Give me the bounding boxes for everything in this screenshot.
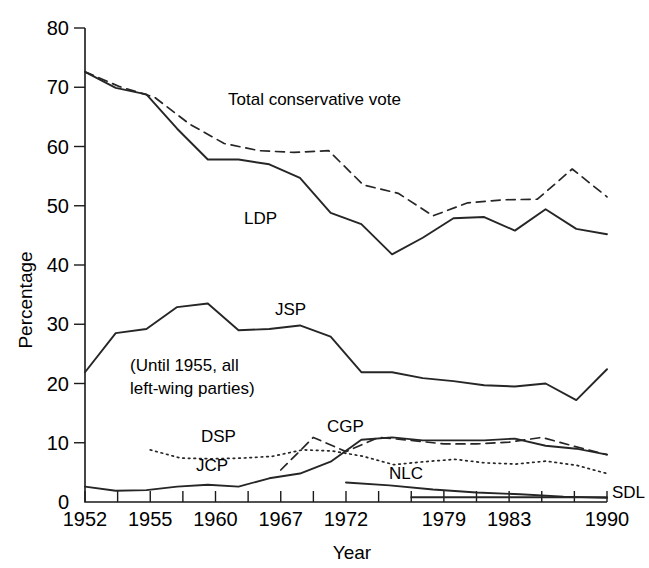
x-tick-label: 1983 xyxy=(487,508,532,530)
x-tick-label: 1990 xyxy=(585,508,630,530)
y-tick-label: 50 xyxy=(47,195,69,217)
x-tick-labels: 19521955196019671972197919831990 xyxy=(63,508,630,530)
y-axis-title: Percentage xyxy=(15,251,36,348)
series-line-cgp xyxy=(281,437,607,470)
x-axis-title: Year xyxy=(333,542,372,563)
y-tick-label: 80 xyxy=(47,17,69,39)
series-label-nlc: NLC xyxy=(389,464,423,483)
y-tick-label: 30 xyxy=(47,313,69,335)
series-label-ldp: LDP xyxy=(244,209,277,228)
series-label-jsp: JSP xyxy=(275,300,306,319)
series-label-jcp: JCP xyxy=(196,456,228,475)
x-tick-label: 1952 xyxy=(63,508,108,530)
x-tick-label: 1972 xyxy=(324,508,369,530)
series-label-dsp: DSP xyxy=(201,427,236,446)
y-tick-labels: 01020304050607080 xyxy=(47,17,69,513)
series-label-sdl: SDL xyxy=(612,483,645,502)
x-tick-label: 1955 xyxy=(128,508,173,530)
note-left-wing-2: left-wing parties) xyxy=(130,379,255,398)
x-tick-label: 1979 xyxy=(422,508,467,530)
y-tick-marks xyxy=(74,28,85,443)
y-tick-label: 40 xyxy=(47,254,69,276)
y-tick-label: 20 xyxy=(47,373,69,395)
y-tick-label: 60 xyxy=(47,136,69,158)
y-tick-label: 10 xyxy=(47,432,69,454)
note-left-wing: (Until 1955, all xyxy=(130,356,239,375)
series-label-cgp: CGP xyxy=(327,417,364,436)
x-tick-label: 1967 xyxy=(259,508,304,530)
x-tick-label: 1960 xyxy=(193,508,238,530)
y-tick-label: 70 xyxy=(47,76,69,98)
line-chart-svg: 01020304050607080 1952195519601967197219… xyxy=(0,0,649,568)
chart-figure: 01020304050607080 1952195519601967197219… xyxy=(0,0,649,568)
chart-annotations: (Until 1955, allleft-wing parties) xyxy=(130,356,255,398)
series-label-total-conservative-vote: Total conservative vote xyxy=(228,90,401,109)
